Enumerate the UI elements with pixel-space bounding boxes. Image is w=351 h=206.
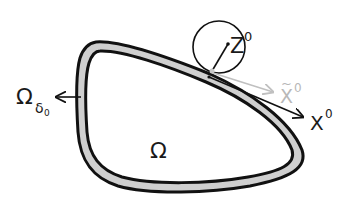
- band-label-omega: Ω: [16, 84, 33, 109]
- band-label: Ω δ 0: [16, 84, 50, 118]
- z-label-letter: Z: [230, 34, 244, 58]
- band-label-delta: δ: [35, 100, 44, 116]
- x-tilde-letter: X: [280, 85, 293, 107]
- z-segment: [212, 44, 228, 71]
- x-label-sup: 0: [325, 107, 333, 121]
- boundary-band: [77, 42, 303, 192]
- z-label-sup: 0: [244, 29, 252, 44]
- x-label: X 0: [310, 107, 333, 135]
- x-label-letter: X: [310, 111, 324, 135]
- band-label-zero: 0: [44, 108, 50, 118]
- x-tilde-label: ~ X 0: [280, 76, 302, 107]
- domain-label: Ω: [150, 138, 167, 163]
- z-label: Z 0: [230, 29, 252, 58]
- domain-diagram: Ω Ω δ 0 Z 0 ~ X 0 X 0: [0, 0, 351, 206]
- x-tilde-sup: 0: [294, 81, 302, 95]
